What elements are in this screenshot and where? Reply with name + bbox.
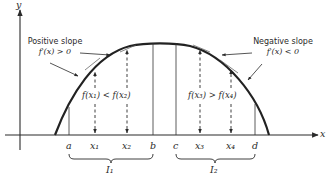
tick-c: c (173, 141, 178, 151)
tick-d: d (252, 141, 258, 151)
tick-x3: x₃ (195, 141, 204, 151)
positive-slope-title: Positive slope (20, 38, 90, 46)
y-axis-label: y (16, 0, 21, 10)
interval-boundaries (69, 43, 255, 135)
negative-slope-title: Negative slope (246, 38, 320, 46)
positive-slope-condition: f′(x) > 0 (20, 48, 90, 56)
positive-slope-annotation: Positive slope f′(x) > 0 (20, 38, 90, 56)
negative-slope-annotation: Negative slope f′(x) < 0 (246, 38, 320, 56)
tick-x2: x₂ (122, 141, 131, 151)
brace-I1 (69, 154, 153, 163)
diagram-canvas (0, 0, 328, 184)
increasing-relation: f(x₁) < f(x₂) (82, 91, 131, 100)
tangent-marks (85, 45, 238, 73)
interval-braces (69, 154, 255, 163)
interval-label-I1: I₁ (106, 165, 114, 175)
annotation-pointers (50, 53, 262, 80)
tick-x4: x₄ (226, 141, 235, 151)
negative-slope-condition: f′(x) < 0 (246, 48, 320, 56)
interval-label-I2: I₂ (210, 165, 218, 175)
x-axis-label: x (320, 129, 325, 139)
tick-b: b (150, 141, 156, 151)
tick-x1: x₁ (90, 141, 99, 151)
axes (5, 10, 318, 150)
tick-a: a (66, 141, 72, 151)
decreasing-relation: f(x₃) > f(x₄) (188, 91, 237, 100)
brace-I2 (176, 154, 255, 163)
